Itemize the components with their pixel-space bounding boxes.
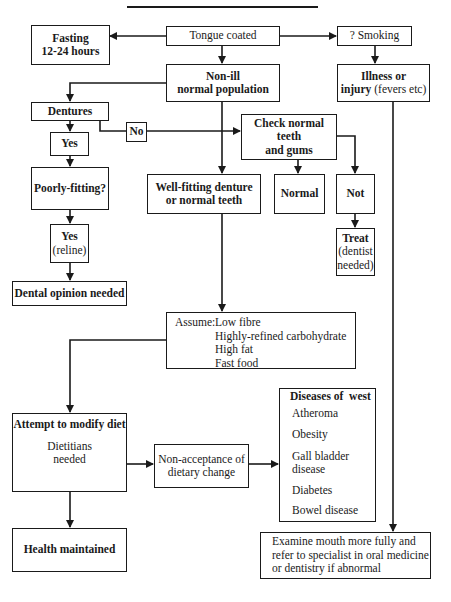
disease-item: Bowel disease — [292, 504, 375, 518]
non-acceptance-line2: dietary change — [168, 466, 235, 480]
treat-line1: Treat — [342, 232, 368, 246]
illness-line1: Illness or — [361, 70, 406, 84]
well-fitting-line2: or normal teeth — [166, 194, 242, 208]
non-ill-line1: Non-ill — [206, 70, 240, 84]
illness-line2-normal: (fevers etc) — [371, 83, 426, 95]
tongue-coated-label: Tongue coated — [189, 29, 256, 43]
node-assume: Assume: Low fibre Highly-refined carbohy… — [166, 312, 356, 369]
examine-line2: refer to specialist in oral medicine — [272, 549, 429, 563]
non-ill-line2: normal population — [177, 83, 269, 97]
examine-line1: Examine mouth more fully and — [272, 535, 416, 549]
node-attempt-modify-diet: Attempt to modify diet Dietitians needed — [12, 413, 127, 492]
assume-label: Assume: — [175, 316, 215, 370]
fasting-line2: 12-24 hours — [42, 45, 100, 59]
node-check-teeth: Check normal teeth and gums — [241, 114, 337, 160]
node-examine: Examine mouth more fully and refer to sp… — [260, 532, 431, 579]
assume-item: Low fibre — [215, 316, 346, 330]
normal-label: Normal — [281, 187, 319, 201]
node-not: Not — [336, 174, 375, 214]
dentures-label: Dentures — [48, 105, 93, 119]
yes-reline-line1: Yes — [61, 230, 78, 244]
node-well-fitting: Well-fitting denture or normal teeth — [147, 174, 261, 214]
disease-item: disease — [292, 463, 375, 477]
assume-item: High fat — [215, 343, 346, 357]
node-no: No — [126, 122, 147, 142]
treat-line2: (dentist — [338, 245, 373, 259]
attempt-heading: Attempt to modify diet — [13, 418, 125, 432]
attempt-line1: Dietitians — [47, 440, 92, 454]
node-smoking: ? Smoking — [337, 26, 412, 46]
node-normal: Normal — [274, 174, 325, 214]
node-poorly-fitting: Poorly-fitting? — [31, 167, 109, 210]
node-diseases-of-west: Diseases of west Atheroma Obesity Gall b… — [279, 388, 376, 522]
check-teeth-line1: Check normal teeth — [242, 117, 336, 144]
no-label: No — [129, 125, 143, 139]
node-treat: Treat (dentist needed) — [336, 228, 375, 276]
not-label: Not — [347, 187, 365, 201]
yes-reline-line2: (reline) — [53, 244, 87, 258]
node-yes: Yes — [50, 132, 89, 156]
poorly-fitting-label: Poorly-fitting? — [34, 182, 106, 196]
dental-opinion-label: Dental opinion needed — [15, 287, 125, 301]
treat-line3: needed) — [337, 259, 373, 273]
node-illness: Illness or injury (fevers etc) — [337, 64, 430, 102]
node-dentures: Dentures — [31, 102, 109, 121]
disease-item: Gall bladder — [292, 450, 375, 464]
assume-item: Fast food — [215, 357, 346, 371]
node-non-acceptance: Non-acceptance of dietary change — [154, 444, 249, 488]
disease-item: Obesity — [292, 428, 375, 442]
node-health-maintained: Health maintained — [12, 528, 127, 572]
attempt-line2: needed — [53, 453, 86, 467]
disease-item: Atheroma — [292, 407, 375, 421]
check-teeth-line2: and gums — [265, 144, 313, 158]
yes-label: Yes — [61, 137, 78, 151]
non-acceptance-line1: Non-acceptance of — [158, 453, 245, 467]
assume-item: Highly-refined carbohydrate — [215, 330, 346, 344]
node-yes-reline: Yes (reline) — [50, 224, 89, 263]
node-non-ill: Non-ill normal population — [166, 64, 280, 102]
node-fasting: Fasting 12-24 hours — [31, 25, 110, 65]
disease-item: Diabetes — [292, 484, 375, 498]
fasting-line1: Fasting — [52, 32, 88, 46]
diseases-heading: Diseases of west — [290, 390, 375, 404]
illness-line2-bold: injury — [341, 83, 372, 95]
health-maintained-label: Health maintained — [24, 543, 116, 557]
smoking-label: ? Smoking — [350, 29, 400, 43]
node-dental-opinion: Dental opinion needed — [12, 281, 127, 306]
well-fitting-line1: Well-fitting denture — [155, 181, 252, 195]
examine-line3: or dentistry if abnormal — [272, 562, 381, 576]
node-tongue-coated: Tongue coated — [166, 26, 280, 46]
